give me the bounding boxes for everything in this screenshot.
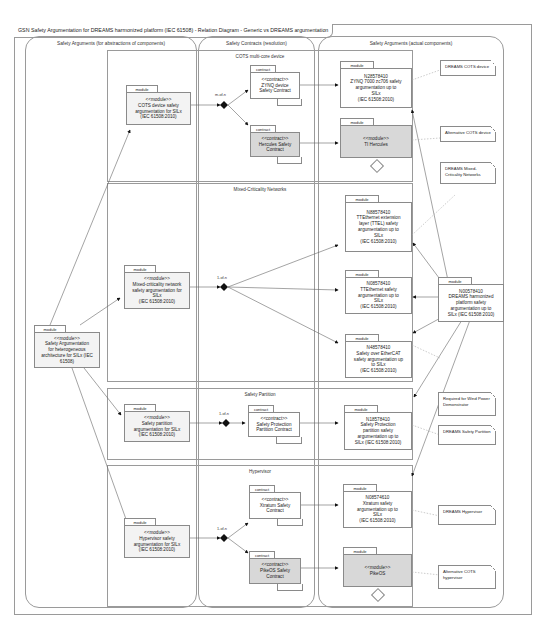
node-hypervisor-generic-body: <<module>>Hypervisor safetyargumentation… <box>124 525 190 558</box>
contract-base <box>276 437 302 444</box>
group-mcn-title: Mixed-Criticality Networks <box>108 187 412 192</box>
node-mcn-generic[interactable]: module <<module>>Mixed-criticality netwo… <box>124 265 190 309</box>
node-zynq-module[interactable]: module N28578410ZYNQ 7000 zc706 safetyar… <box>340 61 412 108</box>
note-alt-cots: Alternative COTS device <box>440 126 496 142</box>
node-tte-module[interactable]: module N08578410TTEthernet safetyargumen… <box>345 270 412 314</box>
note-wind-power: Required for Wind Power Demonstrator <box>438 392 496 416</box>
note-dreams-mcn: DREAMS Mixed-Criticality Networks <box>440 162 496 184</box>
node-root-module[interactable]: module <<module>>Safety Argumentationfor… <box>34 325 100 368</box>
node-partition-contract[interactable]: contract <<contract>>Safety ProtectionPa… <box>248 405 300 437</box>
contract-base <box>277 519 303 526</box>
node-hercules-contract-body: <<contract>>Hercules SafetyContract <box>250 132 300 157</box>
contract-base <box>277 584 303 591</box>
node-partition-contract-body: <<contract>>Safety ProtectionPartition C… <box>248 412 300 437</box>
note-alt-hypervisor: Alternative COTS hypervisor <box>438 565 496 589</box>
node-zynq-module-body: N28578410ZYNQ 7000 zc706 safetyargumenta… <box>340 68 412 108</box>
node-zynq-contract[interactable]: contract <<contract>>ZYNQ deviceSafety C… <box>250 65 300 99</box>
node-dreams-platform[interactable]: module N00578410DREAMS harmonizedplatfor… <box>438 277 504 322</box>
node-mcn-generic-body: <<module>>Mixed-criticality networksafet… <box>124 272 190 309</box>
node-tte-module-body: N08578410TTEthernet safetyargumentation … <box>345 277 412 314</box>
multiplicity-cots: m-of-n <box>215 93 226 97</box>
node-hercules-contract[interactable]: contract <<contract>>Hercules SafetyCont… <box>250 125 300 157</box>
multiplicity-hypervisor: 1-of-n <box>217 527 227 531</box>
note-dreams-partition: DREAMS Safety Partition <box>438 425 496 445</box>
node-cots-generic[interactable]: module <<module>>COTS device safetyargum… <box>126 85 191 125</box>
multiplicity-mcn: 1-of-n <box>217 276 227 280</box>
group-cots-title: COTS multi-core device <box>108 54 412 59</box>
node-ti-hercules[interactable]: module <<module>>TI Hercules <box>340 118 412 158</box>
node-xtratum-module[interactable]: module N08574610Xtratum safetyargumentat… <box>343 484 412 528</box>
node-xtratum-module-body: N08574610Xtratum safetyargumentation up … <box>343 491 412 528</box>
group-partition-title: Safety Partition <box>108 392 412 397</box>
lane-left-title: Safety Arguments (for abstractions of co… <box>26 41 196 46</box>
node-ethercat-module[interactable]: module N48578410Safety over EtherCATsafe… <box>345 334 412 378</box>
node-ttel-module[interactable]: module N88578410TTEthernet extensionlaye… <box>345 195 412 252</box>
node-root-body: <<module>>Safety Argumentationfor hetero… <box>34 332 100 368</box>
node-ttel-module-body: N88578410TTEthernet extensionlayer (TTEL… <box>345 202 412 252</box>
node-partition-module[interactable]: module N18578410Safety Protectionpartiti… <box>344 405 412 450</box>
node-xtratum-contract-body: <<contract>>Xtratum SafetyContract <box>249 492 301 519</box>
node-dreams-platform-body: N00578410DREAMS harmonizedplatform safet… <box>438 284 504 322</box>
node-ethercat-module-body: N48578410Safety over EtherCATsafety argu… <box>345 341 412 378</box>
contract-base <box>277 157 302 164</box>
node-hypervisor-generic[interactable]: module <<module>>Hypervisor safetyargume… <box>124 518 190 558</box>
node-cots-generic-body: <<module>>COTS device safetyargumentatio… <box>126 92 191 125</box>
node-xtratum-contract[interactable]: contract <<contract>>Xtratum SafetyContr… <box>249 485 301 519</box>
node-ti-hercules-body: <<module>>TI Hercules <box>340 125 412 158</box>
node-zynq-contract-body: <<contract>>ZYNQ deviceSafety Contract <box>250 72 300 99</box>
contract-base <box>277 99 302 106</box>
node-pikeos-contract-body: <<contract>>PikeOS SafetyContract <box>249 558 301 584</box>
node-partition-module-body: N18578410Safety Protectionpartition safe… <box>344 412 412 450</box>
node-partition-generic[interactable]: module <<module>>Safety partitionargumen… <box>124 404 190 442</box>
node-pikeos-module-body: <<module>>PikeOS <box>343 554 412 587</box>
node-partition-generic-body: <<module>>Safety partitionargumentation … <box>124 411 190 442</box>
lane-middle-title: Safety Contracts (resolution) <box>199 41 314 46</box>
node-pikeos-module[interactable]: module <<module>>PikeOS <box>343 547 412 587</box>
node-pikeos-contract[interactable]: contract <<contract>>PikeOS SafetyContra… <box>249 551 301 584</box>
note-dreams-hypervisor: DREAMS Hypervisor <box>438 505 496 525</box>
note-dreams-cots: DREAMS COTS device <box>440 60 496 76</box>
multiplicity-partition: 1-of-n <box>219 412 229 416</box>
lane-right-title: Safety Arguments (actual components) <box>319 41 503 46</box>
group-hypervisor-title: Hypervisor <box>108 469 412 474</box>
